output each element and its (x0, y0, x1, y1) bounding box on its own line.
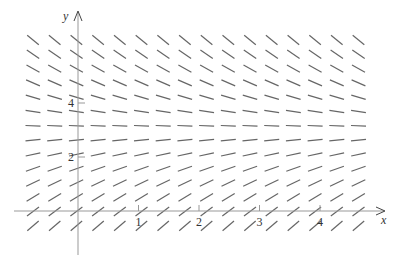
slope-segment (178, 180, 192, 187)
slope-segment (244, 193, 257, 201)
slope-segment (113, 153, 128, 156)
slope-segment (47, 126, 62, 127)
slope-segment (136, 35, 148, 44)
slope-segment (286, 153, 301, 156)
slope-segment (26, 80, 40, 86)
slope-segment (92, 50, 104, 59)
slope-segment (266, 207, 278, 216)
slope-segment (69, 110, 84, 112)
slope-segment (92, 221, 103, 231)
slope-segment (223, 35, 235, 44)
slope-segment (27, 50, 39, 59)
slope-segment (353, 35, 365, 44)
slope-segment (177, 126, 192, 127)
slope-segment (308, 166, 322, 171)
slope-segment (114, 221, 125, 231)
slope-segment (201, 221, 212, 231)
slope-segment (243, 180, 257, 187)
slope-segment (244, 35, 256, 44)
slope-segment (352, 50, 364, 59)
slope-segment (156, 110, 171, 112)
slope-segment (156, 180, 170, 187)
slope-segment (47, 110, 62, 112)
slope-segment (331, 35, 343, 44)
slope-segment (179, 50, 191, 59)
slope-segment (309, 50, 321, 59)
slope-segment (134, 126, 149, 127)
slope-segment (70, 65, 83, 72)
y-tick-label: 2 (68, 150, 74, 164)
slope-segment (221, 153, 236, 156)
x-tick-label: 4 (317, 215, 323, 229)
slope-segment (178, 95, 192, 99)
slope-segment (265, 95, 279, 99)
slope-segment (70, 80, 84, 86)
slope-segment (351, 166, 365, 171)
slope-segment (27, 35, 39, 44)
slope-segment (91, 153, 106, 156)
slope-segment (26, 139, 41, 140)
slope-segment (157, 65, 170, 72)
slope-segment (243, 139, 258, 140)
slope-segment (199, 126, 214, 127)
slope-segment (91, 95, 105, 99)
slope-segment (91, 166, 105, 171)
slope-segment (113, 80, 127, 86)
slope-segment (331, 207, 343, 216)
slope-segment (200, 193, 213, 201)
slope-segment (308, 126, 323, 127)
slope-segment (157, 35, 169, 44)
slope-segment (309, 193, 322, 201)
slope-segment (222, 207, 234, 216)
slope-segment (221, 95, 235, 99)
slope-segment (48, 65, 61, 72)
slope-segment (244, 65, 257, 72)
slope-segment (156, 166, 170, 171)
slope-segment (287, 207, 299, 216)
slope-segment (157, 207, 169, 216)
slope-segment (352, 65, 365, 72)
slope-segment (92, 65, 105, 72)
slope-segment (178, 166, 192, 171)
slope-segment (114, 35, 126, 44)
slope-segments (26, 35, 367, 231)
x-axis-label: x (380, 213, 387, 227)
slope-segment (69, 126, 84, 127)
slope-segment (243, 80, 257, 86)
slope-segment (309, 65, 322, 72)
slope-segment (91, 110, 106, 112)
slope-segment (199, 139, 214, 140)
slope-segment (91, 139, 106, 140)
y-tick-label: 4 (68, 96, 74, 110)
slope-segment (243, 153, 258, 156)
slope-segment (134, 95, 148, 99)
slope-segment (331, 221, 342, 231)
slope-segment (179, 35, 191, 44)
slope-segment (353, 207, 365, 216)
slope-segment (27, 207, 39, 216)
slope-segment (264, 126, 279, 127)
slope-segment (134, 166, 148, 171)
slope-segment (200, 80, 214, 86)
slope-segment (92, 207, 104, 216)
slope-segment (288, 221, 299, 231)
slope-segment (330, 153, 345, 156)
slope-segment (309, 35, 321, 44)
slope-segment (27, 65, 40, 72)
direction-field-plot: 1234 24 x y (0, 0, 406, 262)
slope-segment (92, 193, 105, 201)
slope-segment (114, 207, 126, 216)
slope-segment (352, 80, 366, 86)
slope-segment (48, 193, 61, 201)
slope-segment (264, 139, 279, 140)
slope-segment (330, 193, 343, 201)
slope-segment (48, 95, 62, 99)
slope-segment (178, 153, 193, 156)
slope-segment (134, 153, 149, 156)
slope-segment (243, 126, 258, 127)
x-tick-label: 2 (196, 215, 202, 229)
slope-segment (286, 166, 300, 171)
slope-segment (47, 153, 62, 156)
slope-segment (135, 50, 147, 59)
slope-segment (179, 193, 192, 201)
